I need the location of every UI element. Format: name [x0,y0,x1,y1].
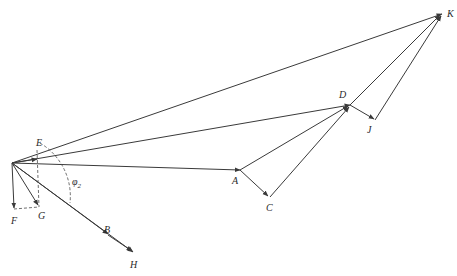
label-B: B [104,224,110,235]
label-A: A [231,175,239,186]
vector-diagram: A B C D E F G H J K φ2 [0,0,457,276]
vector-DJ [350,105,374,119]
vector-OG [12,163,38,205]
vector-AC [240,170,268,196]
label-G: G [38,210,45,221]
vector-OK [12,14,442,163]
vector-OD [12,105,350,163]
label-E: E [35,137,42,148]
dashed-line-FG [14,207,39,209]
vector-OF [12,163,14,208]
vector-CD [270,107,349,197]
label-C: C [266,202,273,213]
label-J: J [367,124,372,135]
label-D: D [338,89,347,100]
vector-DK [350,15,440,105]
vector-OA [12,163,240,170]
vector-AD [240,106,348,170]
vector-OE [12,159,37,163]
vector-BH [108,235,132,251]
label-K: K [446,8,455,19]
label-F: F [10,215,18,226]
vector-JK [375,16,441,120]
label-phi2: φ2 [72,176,82,190]
label-H: H [129,259,138,270]
